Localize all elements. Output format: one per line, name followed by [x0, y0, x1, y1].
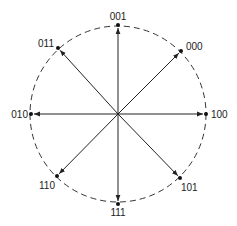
point-100	[204, 112, 208, 116]
point-101	[178, 176, 182, 180]
vector-011	[60, 50, 118, 114]
point-000	[179, 49, 183, 53]
phase-vectors	[34, 28, 203, 201]
label-100: 100	[211, 109, 228, 120]
vector-000	[118, 53, 179, 114]
label-010: 010	[11, 109, 28, 120]
point-110	[55, 174, 59, 178]
label-011: 011	[38, 38, 54, 49]
psk-constellation-diagram: 001000100101111110010011	[0, 0, 237, 226]
point-010	[29, 112, 33, 116]
label-111: 111	[110, 207, 126, 218]
label-000: 000	[186, 41, 203, 52]
point-001	[116, 23, 120, 27]
label-001: 001	[110, 11, 127, 22]
label-101: 101	[181, 182, 198, 193]
point-111	[116, 202, 120, 206]
vector-101	[118, 114, 178, 176]
label-110: 110	[39, 180, 55, 191]
vector-110	[59, 114, 118, 174]
point-011	[56, 46, 60, 50]
